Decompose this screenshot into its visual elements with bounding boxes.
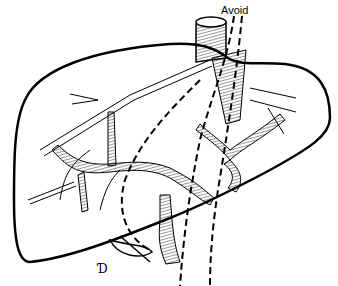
artist-signature: Ɗ bbox=[98, 262, 108, 276]
gallbladder bbox=[110, 240, 152, 256]
portal-vein bbox=[52, 112, 285, 264]
avoid-label: Avoid bbox=[221, 4, 248, 16]
liver-illustration: Avoid Ɗ bbox=[0, 0, 338, 286]
liver-drawing bbox=[0, 0, 338, 286]
